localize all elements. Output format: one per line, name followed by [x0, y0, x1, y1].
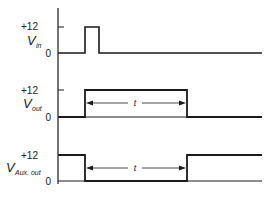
- vout-subscript: out: [32, 105, 43, 112]
- arrow-right-icon: [179, 101, 186, 106]
- vin-high-label: +12: [21, 21, 38, 32]
- vaux-low-label: 0: [45, 176, 51, 187]
- vin-subscript: in: [36, 42, 42, 49]
- vaux-duration-label: t: [134, 163, 137, 173]
- vaux-subscript: Aux. out: [14, 169, 42, 176]
- trace-vin: +12 0 V in: [21, 21, 262, 59]
- vin-waveform: [58, 27, 262, 53]
- arrow-right-icon: [179, 166, 186, 171]
- vout-duration-label: t: [134, 98, 137, 108]
- vout-high-label: +12: [21, 85, 38, 96]
- trace-vout: +12 0 V out t: [21, 85, 262, 123]
- vaux-high-label: +12: [21, 150, 38, 161]
- vout-low-label: 0: [45, 112, 51, 123]
- arrow-left-icon: [86, 101, 93, 106]
- timing-diagram: +12 0 V in +12 0 V out t +12 0 V Aux. ou…: [0, 0, 270, 199]
- vin-low-label: 0: [45, 48, 51, 59]
- trace-vaux: +12 0 V Aux. out t: [6, 150, 262, 187]
- arrow-left-icon: [86, 166, 93, 171]
